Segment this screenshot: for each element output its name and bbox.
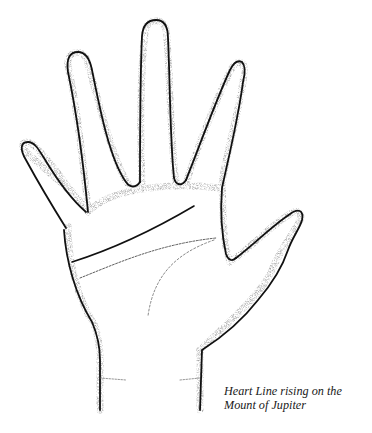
life-line — [148, 240, 214, 316]
caption-line-1: Heart Line rising on the — [224, 384, 372, 398]
caption-line-2: Mount of Jupiter — [224, 398, 372, 412]
wrist-crease-left — [100, 378, 126, 380]
stipple-shading — [22, 21, 300, 410]
figure-caption: Heart Line rising on the Mount of Jupite… — [224, 384, 372, 412]
palm-lines — [72, 206, 216, 380]
hand-outline — [22, 20, 303, 410]
hand-illustration — [0, 0, 372, 433]
head-line — [80, 238, 216, 278]
